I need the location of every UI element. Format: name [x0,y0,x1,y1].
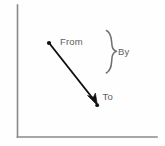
diagram-canvas: From To By [0,0,165,146]
from-endpoint-dot [47,41,51,45]
from-label: From [60,36,83,47]
to-label: To [103,91,113,102]
vector-diagram-figure: From To By [0,0,165,146]
to-endpoint-dot [95,103,99,107]
by-brace-icon [106,31,117,74]
by-label: By [118,46,130,57]
from-to-vector-line [50,44,95,101]
